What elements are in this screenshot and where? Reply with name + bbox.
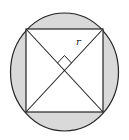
inscribed-square-diagram: r	[0, 0, 129, 140]
